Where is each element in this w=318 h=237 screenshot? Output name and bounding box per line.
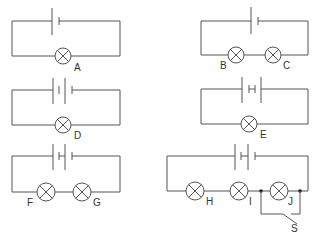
lamp-f-icon [37, 183, 55, 201]
wire [12, 21, 55, 56]
circuit-4: E [201, 77, 308, 140]
lamp-c-icon [265, 47, 281, 63]
lamp-f-label: F [27, 197, 33, 208]
wire [71, 90, 120, 125]
lamp-i-icon [230, 182, 248, 200]
lamp-h-icon [186, 182, 204, 200]
lamp-b-icon [228, 47, 244, 63]
lamp-g-label: G [93, 197, 101, 208]
wire [201, 21, 251, 55]
circuit-5: F G [12, 144, 120, 208]
lamp-j-label: J [288, 196, 293, 207]
wire [258, 21, 308, 55]
lamp-a-icon [55, 48, 71, 64]
lamp-g-icon [73, 183, 91, 201]
wire [257, 89, 308, 124]
lamp-a-label: A [74, 62, 81, 73]
lamp-d-label: D [74, 130, 81, 141]
lamp-j-icon [270, 182, 288, 200]
wire [12, 90, 55, 125]
wire [201, 89, 242, 124]
lamp-i-label: I [249, 196, 252, 207]
lamp-e-icon [241, 116, 257, 132]
circuit-3: D [12, 78, 120, 141]
lamp-b-label: B [220, 60, 227, 71]
lamp-d-icon [55, 117, 71, 133]
lamp-c-label: C [283, 60, 290, 71]
lamp-h-label: H [206, 196, 213, 207]
lamp-e-label: E [260, 129, 267, 140]
circuit-2: B C [201, 7, 308, 71]
circuit-1: A [12, 8, 120, 73]
circuit-diagram: A B C D [0, 0, 318, 237]
switch-s-label: S [291, 223, 298, 234]
circuit-6: H I J S [167, 144, 308, 234]
